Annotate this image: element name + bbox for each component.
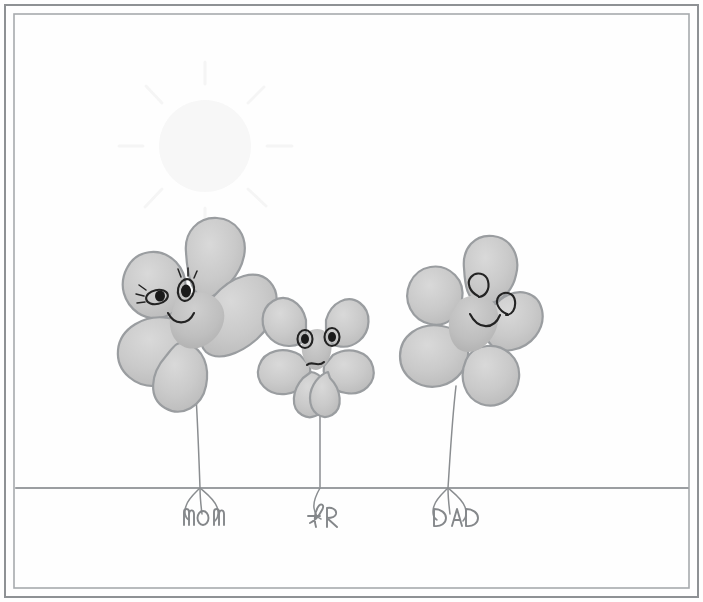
artwork-svg [0, 0, 703, 602]
drawing-canvas [0, 0, 703, 602]
sun-disc [159, 100, 251, 192]
